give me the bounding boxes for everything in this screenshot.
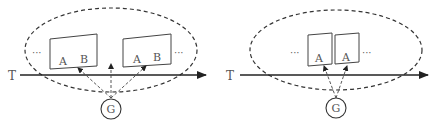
right-g-connectors	[324, 66, 347, 98]
right-card-2: A	[335, 33, 359, 64]
left-card-2-label-b: B	[153, 51, 161, 64]
right-ellipsis-left: ···	[290, 47, 300, 58]
right-card-2-label-a: A	[341, 51, 351, 64]
left-axis-label: T	[8, 69, 16, 83]
diagram-svg: A B A B ··· ··· T G A	[0, 0, 432, 130]
left-panel: A B A B ··· ··· T G	[8, 8, 206, 119]
right-card-1: A	[308, 33, 332, 66]
left-g-connectors	[78, 64, 146, 98]
right-axis-label: T	[226, 69, 234, 83]
left-card-1-label-a: A	[58, 55, 68, 68]
right-g-label: G	[332, 102, 341, 115]
left-ellipsis-left: ···	[32, 47, 42, 58]
left-card-2-label-a: A	[132, 53, 142, 66]
right-card-1-label-a: A	[314, 52, 324, 65]
right-ellipsis-right: ···	[362, 47, 372, 58]
left-card-1-label-b: B	[80, 53, 88, 66]
left-card-1: A B	[50, 34, 97, 69]
left-ellipsis-right: ···	[174, 47, 184, 58]
left-card-2: A B	[123, 34, 171, 67]
left-g-label: G	[107, 103, 116, 116]
diagram-canvas: A B A B ··· ··· T G A	[0, 0, 432, 130]
right-panel: A A ··· ··· T G	[226, 10, 428, 118]
